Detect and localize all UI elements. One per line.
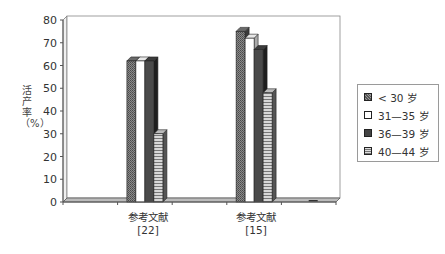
- x-tick-label-line1: 参考文献: [118, 211, 178, 224]
- legend-swatch-icon: [364, 129, 372, 137]
- x-tick-label: 参考文献 [15]: [226, 211, 286, 237]
- x-tick-label-line1: 参考文献: [226, 211, 286, 224]
- svg-text:10: 10: [43, 173, 57, 186]
- legend-label: 40—44 岁: [378, 144, 429, 159]
- legend-item: < 30 岁: [364, 90, 417, 104]
- plot-area: [63, 16, 340, 202]
- x-axis: [63, 202, 336, 205]
- svg-text:60: 60: [43, 60, 57, 73]
- legend-swatch-icon: [364, 111, 372, 119]
- x-tick-label: 参考文献 [22]: [118, 211, 178, 237]
- x-tick-label-line2: [22]: [118, 224, 178, 237]
- svg-text:50: 50: [43, 82, 57, 95]
- bar: [263, 89, 276, 202]
- legend-item: 31—35 岁: [364, 108, 429, 122]
- svg-text:80: 80: [43, 14, 57, 27]
- legend-item: 40—44 岁: [364, 144, 429, 158]
- svg-text:70: 70: [43, 37, 57, 50]
- svg-text:30: 30: [43, 128, 57, 141]
- svg-text:40: 40: [43, 105, 57, 118]
- bar: [309, 200, 318, 202]
- svg-text:0: 0: [50, 196, 57, 209]
- legend-label: 31—35 岁: [378, 108, 429, 123]
- legend-item: 36—39 岁: [364, 126, 429, 140]
- svg-text:20: 20: [43, 151, 57, 164]
- legend-swatch-icon: [364, 147, 372, 155]
- legend-label: < 30 岁: [378, 90, 417, 105]
- legend-swatch-icon: [364, 93, 372, 101]
- legend: < 30 岁 31—35 岁 36—39 岁 40—44 岁: [357, 84, 439, 162]
- legend-label: 36—39 岁: [378, 126, 429, 141]
- x-tick-label-line2: [15]: [226, 224, 286, 237]
- y-axis: 01020304050607080: [43, 14, 63, 209]
- bar: [154, 130, 167, 202]
- y-axis-label: 活产率（%）: [20, 85, 34, 129]
